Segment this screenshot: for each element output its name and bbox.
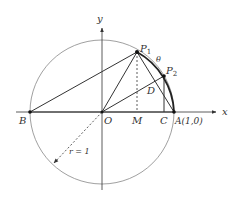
- point-O: [101, 111, 104, 114]
- point-B: [28, 110, 32, 114]
- label-radius: r = 1: [69, 147, 90, 156]
- label-C: C: [160, 115, 168, 126]
- label-O: O: [104, 115, 112, 126]
- label-B: B: [18, 115, 26, 126]
- label-P2: P2: [165, 65, 177, 78]
- y-axis-label: y: [96, 13, 103, 24]
- unit-circle-diagram: y x P1 P2 θ D B O M C A(1,0) r = 1: [0, 0, 238, 197]
- chord-BP1: [30, 52, 137, 112]
- point-A: [172, 110, 176, 114]
- x-axis-label: x: [222, 106, 228, 117]
- label-D: D: [146, 85, 155, 96]
- point-P1: [135, 50, 139, 54]
- label-theta: θ: [156, 55, 161, 64]
- label-A: A(1,0): [174, 116, 203, 126]
- radius-OP1: [102, 52, 137, 112]
- label-M: M: [131, 115, 143, 126]
